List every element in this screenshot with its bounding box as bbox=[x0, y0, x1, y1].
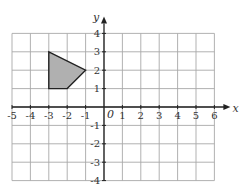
x-tick-label: -3 bbox=[44, 110, 54, 121]
x-tick-label: 2 bbox=[138, 110, 144, 121]
x-tick-label: -4 bbox=[26, 110, 36, 121]
y-tick-label: -4 bbox=[90, 175, 100, 186]
x-tick-label: 3 bbox=[156, 110, 162, 121]
coordinate-plane: -5-4-3-2-11234564321-1-2-3-40xy bbox=[0, 0, 242, 192]
x-tick-label: -5 bbox=[7, 110, 17, 121]
x-axis-label: x bbox=[232, 102, 239, 115]
x-tick-label: 6 bbox=[211, 110, 217, 121]
y-tick-label: 1 bbox=[94, 83, 100, 94]
x-axis-arrow-icon bbox=[223, 104, 230, 110]
x-tick-label: -1 bbox=[81, 110, 91, 121]
x-tick-label: 5 bbox=[193, 110, 199, 121]
y-axis-label: y bbox=[92, 11, 100, 24]
y-tick-label: -2 bbox=[90, 138, 100, 149]
x-tick-label: 1 bbox=[119, 110, 125, 121]
x-tick-label: 4 bbox=[174, 110, 180, 121]
y-tick-label: 3 bbox=[94, 46, 100, 57]
y-tick-label: -1 bbox=[90, 120, 100, 131]
y-tick-label: 4 bbox=[94, 28, 100, 39]
y-tick-label: 2 bbox=[94, 65, 100, 76]
y-tick-label: -3 bbox=[90, 157, 100, 168]
origin-label: 0 bbox=[107, 108, 114, 121]
x-tick-label: -2 bbox=[62, 110, 72, 121]
y-axis-arrow-icon bbox=[101, 16, 107, 23]
